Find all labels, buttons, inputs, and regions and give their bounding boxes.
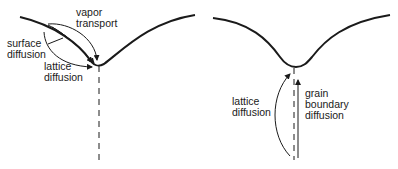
right-surface-curve [213,15,390,67]
label-surface-diffusion: surface diffusion [7,38,46,60]
label-vapor-transport: vapor transport [76,7,117,29]
diagram-svg [0,0,398,169]
left-panel [20,15,195,160]
label-lattice-diffusion-right: lattice diffusion [232,96,271,118]
right-lattice-diffusion-arrow [275,74,290,156]
surface-diffusion-leader [48,38,63,44]
label-grain-boundary-diffusion: grain boundary diffusion [305,88,349,121]
label-lattice-diffusion-left: lattice diffusion [44,61,83,83]
right-panel [213,15,390,160]
diagram-canvas: vapor transport surface diffusion lattic… [0,0,398,169]
